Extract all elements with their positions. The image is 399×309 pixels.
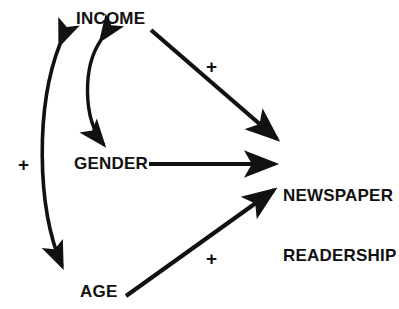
sign-age-readership: + xyxy=(206,249,217,268)
node-gender: GENDER xyxy=(74,154,148,174)
node-income: INCOME xyxy=(76,9,145,29)
node-newspaper-readership-line2: READERSHIP xyxy=(283,246,396,266)
node-age: AGE xyxy=(80,282,117,302)
edge-age-to-readership xyxy=(126,190,274,296)
edge-income-to-readership xyxy=(151,30,277,139)
sign-income-age: + xyxy=(18,155,29,174)
edge-income-age-curve xyxy=(42,44,62,266)
edge-income-gender-curve xyxy=(87,40,104,145)
sign-income-readership: + xyxy=(206,57,217,76)
path-diagram: INCOME GENDER AGE NEWSPAPER READERSHIP +… xyxy=(0,0,399,309)
node-newspaper-readership-line1: NEWSPAPER xyxy=(283,186,396,206)
node-newspaper-readership: NEWSPAPER READERSHIP xyxy=(283,146,396,306)
